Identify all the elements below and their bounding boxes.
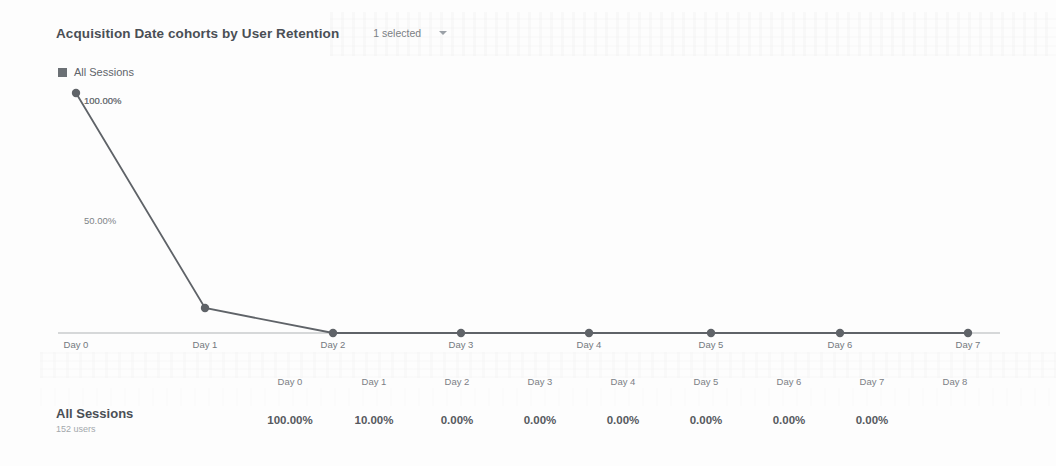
series-line-all-sessions [76, 93, 968, 333]
table-header-day-0: Day 0 [278, 376, 303, 387]
y-axis-tick-label: 50.00% [84, 215, 116, 226]
table-cell-day-2: 0.00% [441, 414, 474, 426]
table-cell-day-6: 0.00% [773, 414, 806, 426]
table-header-day-4: Day 4 [611, 376, 636, 387]
data-point-day-5[interactable] [707, 329, 715, 337]
point-annotation-label: 100.00% [84, 95, 122, 106]
x-axis-tick-day-0: Day 0 [64, 339, 89, 350]
scan-artifact-low [40, 388, 1056, 406]
row-subtitle: 152 users [56, 424, 133, 434]
data-point-day-3[interactable] [457, 329, 465, 337]
table-header-day-2: Day 2 [445, 376, 470, 387]
data-point-day-6[interactable] [836, 329, 844, 337]
x-axis-tick-day-2: Day 2 [321, 339, 346, 350]
report-page: Acquisition Date cohorts by User Retenti… [0, 0, 1056, 466]
table-header-day-6: Day 6 [777, 376, 802, 387]
table-cell-day-0: 100.00% [267, 414, 312, 426]
x-axis-tick-day-3: Day 3 [449, 339, 474, 350]
retention-line-chart: 100.00%50.00% Day 0Day 1Day 2Day 3Day 4D… [0, 0, 1056, 360]
data-point-day-7[interactable] [964, 329, 972, 337]
x-axis-tick-day-4: Day 4 [577, 339, 602, 350]
data-point-day-1[interactable] [201, 304, 209, 312]
chart-canvas [0, 0, 1056, 360]
table-header-day-8: Day 8 [943, 376, 968, 387]
x-axis-tick-day-6: Day 6 [828, 339, 853, 350]
series-markers [72, 89, 972, 337]
table-header-day-5: Day 5 [694, 376, 719, 387]
table-cell-day-5: 0.00% [690, 414, 723, 426]
table-header-day-1: Day 1 [362, 376, 387, 387]
table-header-day-3: Day 3 [528, 376, 553, 387]
x-axis-tick-day-7: Day 7 [956, 339, 981, 350]
data-point-day-0[interactable] [72, 89, 80, 97]
data-point-day-4[interactable] [585, 329, 593, 337]
table-cell-day-1: 10.00% [354, 414, 393, 426]
table-row-label: All Sessions 152 users [56, 406, 133, 434]
data-point-day-2[interactable] [329, 329, 337, 337]
x-axis-tick-day-5: Day 5 [699, 339, 724, 350]
table-cell-day-7: 0.00% [856, 414, 889, 426]
row-title: All Sessions [56, 406, 133, 421]
table-cell-day-3: 0.00% [524, 414, 557, 426]
table-header-day-7: Day 7 [860, 376, 885, 387]
x-axis-tick-day-1: Day 1 [193, 339, 218, 350]
table-cell-day-4: 0.00% [607, 414, 640, 426]
